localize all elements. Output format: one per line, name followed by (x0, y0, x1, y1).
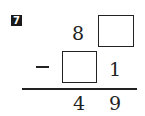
minuend-tens-digit: 8 (70, 23, 86, 43)
difference-tens-digit: 4 (71, 93, 87, 113)
sum-line-divider (22, 88, 137, 90)
subtrahend-ones-digit: 1 (107, 59, 123, 79)
minus-sign-icon (36, 66, 49, 68)
problem-number-badge: 7 (11, 15, 22, 26)
difference-ones-digit: 9 (107, 93, 123, 113)
subtrahend-tens-blank-box[interactable] (62, 51, 97, 83)
minuend-ones-blank-box[interactable] (98, 15, 134, 47)
